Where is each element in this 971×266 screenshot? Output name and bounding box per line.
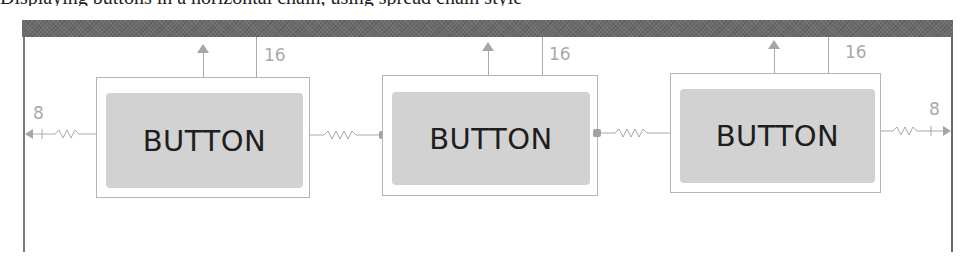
caption-text: Displaying buttons in a horizontal chain…: [0, 0, 522, 6]
button-3[interactable]: BUTTON: [680, 89, 875, 183]
right-chain-constraint[interactable]: [881, 121, 951, 141]
top-constraint-arrow-3[interactable]: [774, 40, 780, 74]
arrow-up-icon: [482, 42, 494, 51]
top-margin-label-1: 16: [264, 45, 286, 65]
arrow-up-icon: [768, 40, 780, 49]
top-margin-label-3: 16: [845, 42, 867, 62]
top-constraint-arrow-2[interactable]: [488, 42, 494, 76]
margin-guide-3: [828, 37, 829, 73]
left-chain-constraint[interactable]: [25, 124, 97, 144]
margin-guide-2: [542, 37, 543, 75]
left-margin-label: 8: [33, 103, 44, 123]
margin-guide-1: [256, 37, 257, 77]
arrow-up-icon: [197, 44, 209, 53]
button-1-label: BUTTON: [143, 124, 267, 158]
constraint-line: [488, 51, 489, 76]
button-2-label: BUTTON: [429, 122, 553, 156]
chain-constraint-1-2[interactable]: [310, 129, 390, 141]
constraint-line: [203, 53, 204, 78]
arrow-left-icon: [25, 129, 33, 139]
figure-caption: Displaying buttons in a horizontal chain…: [0, 0, 971, 6]
parent-right-edge: [951, 37, 953, 252]
right-margin-label: 8: [929, 99, 940, 119]
parent-left-edge: [23, 37, 25, 252]
button-1[interactable]: BUTTON: [106, 93, 303, 188]
constraint-line: [774, 49, 775, 74]
arrow-right-icon: [943, 126, 951, 136]
top-constraint-arrow-1[interactable]: [203, 44, 209, 78]
chain-constraint-2-3[interactable]: [593, 127, 673, 139]
button-2[interactable]: BUTTON: [392, 92, 590, 185]
button-3-label: BUTTON: [716, 119, 840, 153]
layout-parent-top-bar: [22, 20, 953, 37]
chain-anchor-dot: [593, 129, 601, 137]
top-margin-label-2: 16: [549, 44, 571, 64]
